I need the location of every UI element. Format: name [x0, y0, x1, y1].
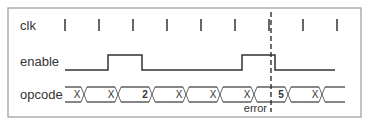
- bus-value: X: [74, 89, 81, 100]
- signal-label-opcode: opcode: [20, 87, 63, 102]
- error-marker-label: error: [244, 102, 268, 114]
- bus-value: X: [210, 89, 217, 100]
- bus-value: X: [244, 89, 251, 100]
- bus-value: X: [176, 89, 183, 100]
- timing-diagram: clk enable opcode XX2XXX5X error: [0, 0, 369, 122]
- signal-label-clk: clk: [20, 18, 36, 33]
- signal-label-enable: enable: [20, 54, 59, 69]
- bus-value: X: [108, 89, 115, 100]
- bus-value: 2: [142, 89, 148, 100]
- bus-value: X: [312, 89, 319, 100]
- bus-value: 5: [278, 89, 284, 100]
